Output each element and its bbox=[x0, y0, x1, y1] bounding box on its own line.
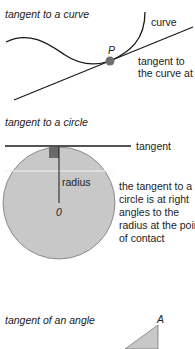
note-line-2: circle is at right bbox=[119, 193, 189, 205]
note-line-4: radius at the point bbox=[119, 219, 195, 231]
radius-label: radius bbox=[62, 176, 91, 188]
note-line-1: the tangent to a bbox=[119, 180, 192, 192]
angle-section-title: tangent of an angle bbox=[5, 314, 95, 326]
note-line-5: of contact bbox=[119, 232, 165, 244]
diagram-canvas bbox=[0, 0, 195, 349]
curve-section-title: tangent to a curve bbox=[5, 8, 89, 20]
circle-section-title: tangent to a circle bbox=[5, 116, 88, 128]
center-label: 0 bbox=[56, 206, 62, 218]
point-p-marker bbox=[106, 57, 115, 66]
tangent-curve-at-p-label: the curve at P bbox=[138, 67, 195, 79]
point-p-label: P bbox=[108, 44, 115, 56]
right-angle-marker bbox=[49, 147, 59, 158]
note-line-3: angles to the bbox=[119, 206, 179, 218]
triangle-shape bbox=[125, 325, 158, 349]
tangent-to-label: tangent to bbox=[138, 55, 185, 67]
curve-label: curve bbox=[151, 16, 177, 28]
tangent-label: tangent bbox=[136, 140, 171, 152]
vertex-a-label: A bbox=[157, 313, 164, 325]
